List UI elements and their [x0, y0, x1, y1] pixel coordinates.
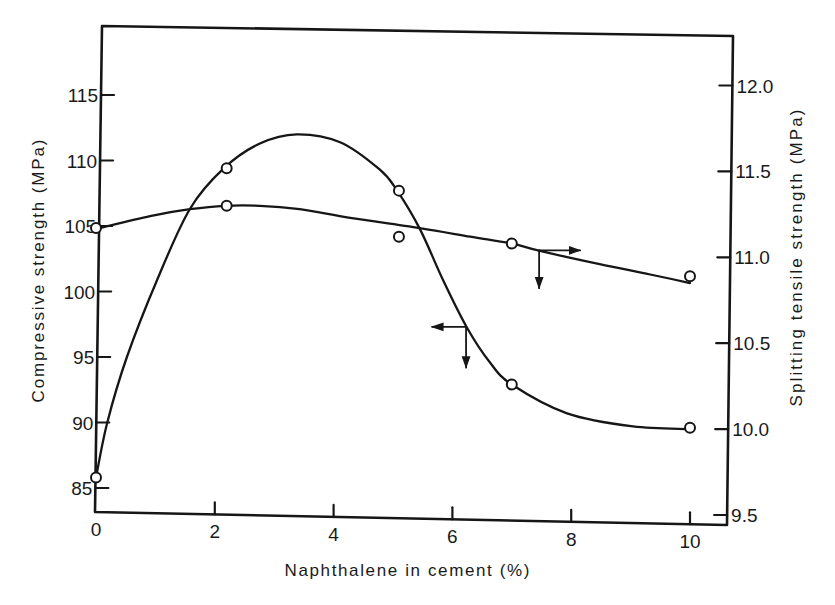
left-y-axis-tick-label: 95	[73, 347, 94, 368]
x-axis-tick-label: 8	[566, 529, 577, 550]
right-y-axis-tick-label: 11.5	[735, 161, 771, 182]
x-axis-tick-label: 4	[328, 524, 339, 545]
right-y-axis-label: Splitting tensile strength (MPa)	[787, 110, 806, 407]
splitting-tensile-strength-data-point	[222, 201, 232, 211]
left-y-axis-label: Compressive strength (MPa)	[29, 140, 48, 403]
left-y-axis-tick-label: 100	[63, 282, 95, 303]
right-y-axis-tick-label: 10.0	[732, 419, 769, 440]
x-axis-tick-label: 10	[679, 531, 700, 552]
axis-indicator-arrows	[432, 250, 580, 367]
x-axis-tick-label: 0	[91, 519, 102, 540]
right-y-axis-tick-label: 11.0	[734, 247, 770, 268]
x-axis-label: Naphthalene in cement (%)	[285, 561, 530, 580]
x-axis-tick-label: 6	[447, 526, 458, 547]
compressive-strength-data-point	[222, 163, 232, 173]
compressive-strength-data-point	[91, 473, 101, 483]
splitting-tensile-strength-data-point	[91, 223, 101, 233]
right-y-axis-tick-label: 12.0	[736, 76, 773, 97]
compressive-strength-data-point	[507, 380, 517, 390]
splitting-tensile-strength-curve	[100, 205, 690, 283]
left-y-axis-tick-label: 90	[72, 413, 93, 434]
splitting-tensile-strength-data-point	[685, 271, 695, 281]
left-y-axis-tick-label: 115	[68, 85, 98, 106]
compressive-strength-data-point	[685, 423, 695, 433]
splitting-tensile-strength-data-point	[507, 239, 517, 249]
dual-axis-line-chart: 8590951001051101159.510.010.511.011.512.…	[0, 0, 835, 605]
right-y-axis-tick-label: 10.5	[733, 333, 770, 354]
compressive-strength-data-point	[394, 186, 404, 196]
x-axis-tick-label: 2	[210, 521, 221, 542]
fitted-curves	[96, 134, 690, 477]
left-y-axis-tick-label: 110	[67, 151, 97, 172]
splitting-tensile-strength-data-point	[394, 232, 404, 242]
left-y-axis-tick-label: 85	[71, 478, 92, 499]
axis-ticks: 8590951001051101159.510.010.511.011.512.…	[63, 76, 773, 553]
compressive-strength-curve	[96, 134, 690, 477]
plot-frame	[95, 26, 733, 525]
right-y-axis-tick-label: 9.5	[731, 505, 757, 526]
